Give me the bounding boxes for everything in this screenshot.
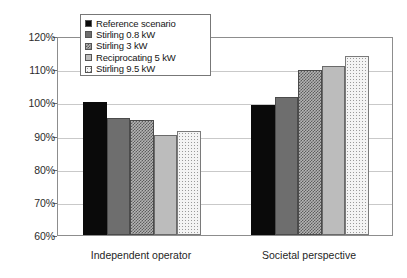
legend-swatch-icon [85,66,92,73]
bar [177,131,201,235]
y-tick-label: 100% [9,98,55,109]
legend-item-label: Stirling 0.8 kW [96,30,155,40]
legend-item[interactable]: Stirling 3 kW [85,41,210,52]
y-tick-label: 70% [9,198,55,209]
legend-item-label: Stirling 3 kW [96,41,147,51]
bar [345,56,369,235]
bar [107,118,131,235]
bar [83,102,107,235]
x-axis-group-label: Societal perspective [225,249,393,261]
y-tick-label: 60% [9,231,55,242]
bar-chart: Reference scenarioStirling 0.8 kWStirlin… [0,0,407,278]
y-tick-label: 90% [9,132,55,143]
bar [298,70,322,235]
legend-item[interactable]: Reference scenario [85,18,210,29]
y-tick-label: 110% [9,65,55,76]
legend-item[interactable]: Reciprocating 5 kW [85,52,210,63]
bar [130,120,154,235]
legend-swatch-icon [85,43,92,50]
bar [322,66,346,235]
x-axis-group-label: Independent operator [57,249,225,261]
chart-legend: Reference scenarioStirling 0.8 kWStirlin… [80,14,211,76]
legend-swatch-icon [85,54,92,61]
bar [275,97,299,235]
y-tick-label: 80% [9,165,55,176]
legend-item-label: Reference scenario [96,19,176,29]
bar [251,105,275,235]
bar [154,135,178,235]
legend-item[interactable]: Stirling 0.8 kW [85,29,210,40]
y-tick-label: 120% [9,32,55,43]
legend-swatch-icon [85,31,92,38]
legend-item[interactable]: Stirling 9.5 kW [85,64,210,75]
legend-item-label: Reciprocating 5 kW [96,53,176,63]
legend-swatch-icon [85,20,92,27]
legend-item-label: Stirling 9.5 kW [96,64,155,74]
